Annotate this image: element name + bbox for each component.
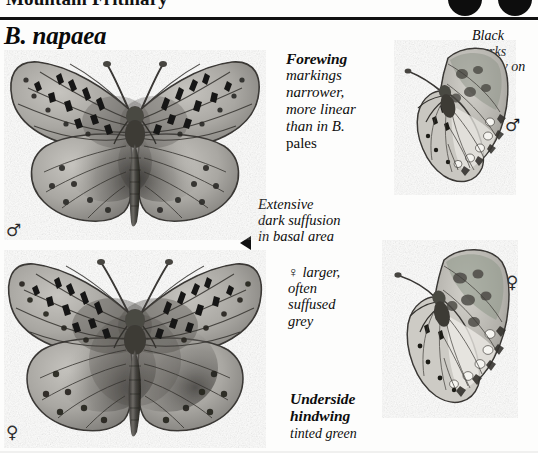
annotation-forewing: Forewing markings narrower, more linear … xyxy=(286,50,382,151)
running-head: Mountain Fritillary xyxy=(6,0,168,10)
specimen-male-upperside xyxy=(4,50,266,240)
annotation-dark-suffusion-line1: Extensive xyxy=(258,196,314,212)
butterfly-female-upperside-illustration xyxy=(4,250,266,448)
specimen-male-underside xyxy=(392,40,516,200)
annotation-forewing-line5: pales xyxy=(286,135,317,151)
annotation-underside-heading-line1: Underside xyxy=(290,390,394,407)
annotation-female-larger-line4: grey xyxy=(288,313,313,329)
annotation-forewing-line4: than in B. xyxy=(286,118,345,134)
annotation-forewing-line2: narrower, xyxy=(286,84,344,100)
butterfly-male-upperside-illustration xyxy=(4,50,266,240)
specimen-female-underside xyxy=(382,240,518,426)
annotation-female-larger-line3: suffused xyxy=(288,296,336,312)
status-dot-1-badge xyxy=(448,0,482,16)
annotation-female-larger-line1: ♀ larger, xyxy=(288,264,340,280)
annotation-female-larger: ♀ larger, often suffused grey xyxy=(288,264,380,329)
annotation-female-larger-line2: often xyxy=(288,280,317,296)
annotation-forewing-heading: Forewing xyxy=(286,50,382,67)
annotation-underside-heading-line2: hindwing xyxy=(290,407,394,424)
annotation-underside-body: tinted green xyxy=(290,426,357,441)
annotation-forewing-line1: markings xyxy=(286,67,342,83)
specimen-female-upperside xyxy=(4,250,266,448)
annotation-dark-suffusion-line2: dark suffusion xyxy=(258,212,341,228)
status-dot-2-badge xyxy=(498,0,532,16)
annotation-underside-hindwing: Underside hindwing tinted green xyxy=(290,390,394,442)
butterfly-female-underside-illustration xyxy=(382,240,518,426)
page-title: B. napaea xyxy=(4,22,106,50)
status-badge-group xyxy=(448,0,532,16)
annotation-dark-suffusion: Extensive dark suffusion in basal area xyxy=(258,196,384,245)
annotation-forewing-line3: more linear xyxy=(286,101,356,117)
butterfly-male-underside-illustration xyxy=(392,40,516,200)
header-rule xyxy=(0,17,538,20)
field-guide-page: Mountain Fritillary B. napaea Forewing m… xyxy=(0,0,538,453)
annotation-dark-suffusion-line3: in basal area xyxy=(258,228,334,244)
